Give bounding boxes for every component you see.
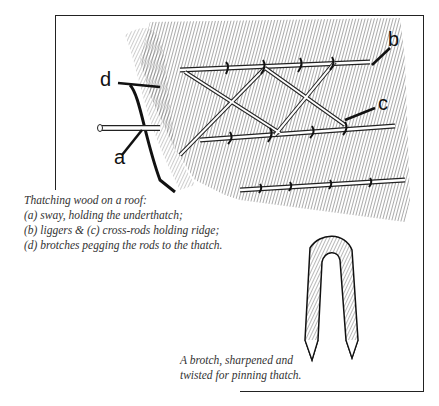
caption-line: (b) liggers & (c) cross-rods holding rid… xyxy=(24,223,222,238)
label-d: d xyxy=(100,68,111,91)
caption-line: A brotch, sharpened and xyxy=(180,353,280,368)
brotch-caption: A brotch, sharpened and twisted for pinn… xyxy=(180,353,280,383)
caption-line: twisted for pinning thatch. xyxy=(180,368,280,383)
main-caption: Thatching wood on a roof: (a) sway, hold… xyxy=(24,193,222,253)
label-b: b xyxy=(388,28,399,51)
thatch-roof xyxy=(140,18,410,222)
brotch-illustration xyxy=(305,236,358,360)
caption-line: (d) brotches pegging the rods to the tha… xyxy=(24,238,222,253)
caption-line: Thatching wood on a roof: xyxy=(24,193,222,208)
label-c: c xyxy=(378,92,388,115)
caption-line: (a) sway, holding the underthatch; xyxy=(24,208,222,223)
label-a: a xyxy=(114,146,125,169)
